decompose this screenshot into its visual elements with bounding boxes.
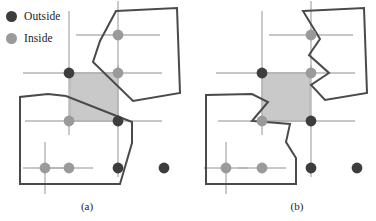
outside-point	[64, 68, 75, 79]
legend: Outside Inside	[6, 6, 92, 50]
outside-point	[159, 163, 170, 174]
inside-point	[306, 30, 317, 41]
upper-right-polygon	[303, 8, 367, 100]
caption-a: (a)	[72, 200, 102, 212]
figure-container: Outside Inside (a) (b)	[0, 0, 376, 221]
inside-dot-icon	[6, 33, 17, 44]
legend-label-inside: Inside	[24, 32, 53, 44]
outside-point	[306, 116, 317, 127]
legend-label-outside: Outside	[24, 10, 60, 22]
shaded-cell	[262, 73, 310, 121]
inside-point	[257, 163, 268, 174]
legend-item-outside: Outside	[6, 6, 92, 26]
inside-point	[257, 116, 268, 127]
outside-dot-icon	[6, 11, 17, 22]
inside-point	[221, 163, 232, 174]
inside-point	[64, 163, 75, 174]
inside-point	[113, 68, 124, 79]
inside-point	[40, 163, 51, 174]
legend-item-inside: Inside	[6, 28, 92, 48]
outside-point	[113, 163, 124, 174]
inside-point	[306, 68, 317, 79]
outside-point	[113, 116, 124, 127]
caption-b: (b)	[282, 200, 312, 212]
outside-point	[257, 68, 268, 79]
inside-point	[113, 30, 124, 41]
outside-point	[306, 163, 317, 174]
panel-b	[204, 1, 367, 194]
inside-point	[64, 116, 75, 127]
outside-point	[352, 163, 363, 174]
